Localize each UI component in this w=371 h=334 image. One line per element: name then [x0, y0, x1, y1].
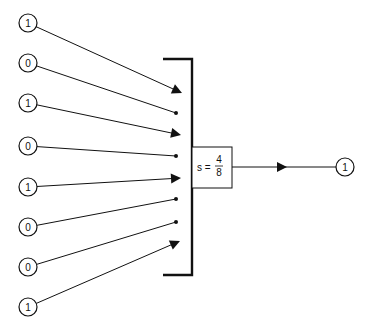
summation-lhs: s = — [197, 162, 211, 173]
input-connection — [37, 199, 176, 225]
input-connection — [37, 222, 176, 264]
input-connection — [37, 66, 176, 113]
input-node-label: 1 — [25, 98, 31, 109]
input-nodes: 10101001 — [19, 14, 182, 316]
input-node-label: 0 — [25, 58, 31, 69]
summation-diagram: 10101001 s = 4 8 1 — [0, 0, 371, 334]
input-connection — [37, 147, 176, 156]
summation-denominator: 8 — [216, 167, 222, 178]
output-node-label: 1 — [342, 162, 348, 173]
input-node-label: 0 — [25, 262, 31, 273]
input-node-label: 1 — [25, 302, 31, 313]
input-node-label: 0 — [25, 222, 31, 233]
input-node-label: 1 — [25, 18, 31, 29]
input-connection — [37, 105, 173, 134]
dot-terminator-icon — [174, 197, 178, 201]
arrowhead-icon — [170, 128, 181, 138]
dot-terminator-icon — [174, 220, 178, 224]
input-node-label: 1 — [25, 182, 31, 193]
dot-terminator-icon — [174, 111, 178, 115]
input-connection — [36, 244, 172, 303]
summation-numerator: 4 — [216, 154, 222, 165]
output-arrow-icon — [277, 162, 287, 172]
input-connection — [37, 178, 173, 186]
dot-terminator-icon — [174, 154, 178, 158]
arrowhead-icon — [171, 174, 181, 184]
input-connection — [36, 27, 175, 90]
input-node-label: 0 — [25, 141, 31, 152]
